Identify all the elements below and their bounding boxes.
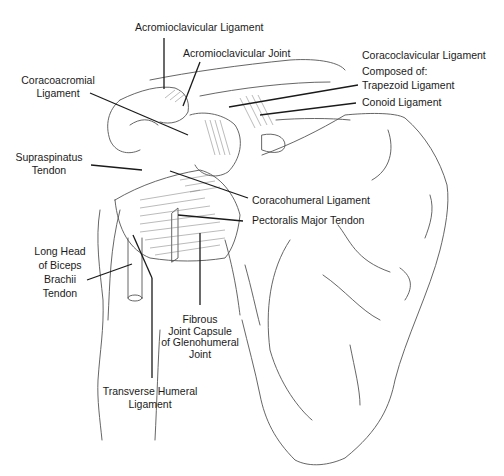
- leader-supraspinatus: [91, 165, 142, 170]
- label-supraspinatus-tendon: Supraspinatus Tendon: [14, 151, 84, 176]
- label-coracoclavicular-ligament: Coracoclavicular Ligament: [362, 49, 486, 62]
- anatomy-illustration: [0, 0, 504, 476]
- label-acromioclavicular-ligament: Acromioclavicular Ligament: [135, 21, 263, 34]
- acromion: [120, 87, 188, 123]
- label-coracohumeral-ligament: Coracohumeral Ligament: [252, 194, 370, 207]
- label-fibrous-joint-capsule: Fibrous Joint Capsule of Glenohumeral Jo…: [160, 314, 240, 360]
- label-coracoacromial-ligament: Coracoacromial Ligament: [18, 74, 98, 99]
- leader-ac-joint: [183, 62, 200, 106]
- leader-transverse: [133, 235, 152, 278]
- label-transverse-humeral-ligament: Transverse Humeral Ligament: [100, 385, 200, 410]
- label-composed-of: Composed of:: [362, 65, 427, 78]
- label-trapezoid-ligament: Trapezoid Ligament: [362, 79, 454, 92]
- leader-trapezoid: [229, 85, 358, 107]
- coracoid: [190, 113, 240, 176]
- clavicle: [150, 60, 345, 80]
- joint-capsule: [115, 170, 240, 261]
- biceps-tendon: [128, 238, 142, 298]
- leader-biceps: [87, 264, 132, 280]
- scapula-outline: [242, 113, 448, 464]
- shoulder-ligament-diagram: Acromioclavicular Ligament Acromioclavic…: [0, 0, 504, 476]
- label-acromioclavicular-joint: Acromioclavicular Joint: [183, 47, 290, 60]
- leader-conoid: [260, 103, 356, 115]
- leader-coracoacromial: [90, 93, 188, 135]
- label-pectoralis-major-tendon: Pectoralis Major Tendon: [252, 214, 364, 227]
- leader-pectoralis: [178, 215, 243, 221]
- label-conoid-ligament: Conoid Ligament: [362, 96, 441, 109]
- label-long-head-biceps-tendon: Long Head of Biceps Brachii Tendon: [28, 244, 92, 300]
